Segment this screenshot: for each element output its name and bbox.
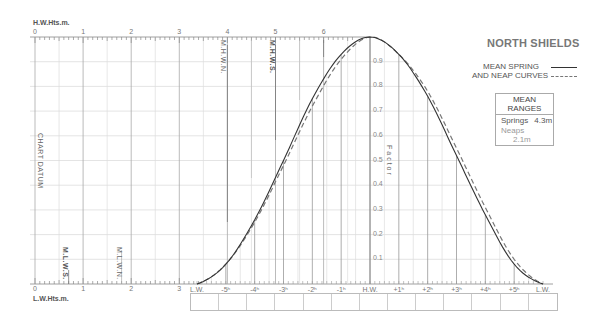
neaps-label: Neaps	[501, 126, 524, 135]
top-height-tick: 2	[129, 28, 133, 35]
time-tick: +5ʰ	[509, 286, 520, 293]
time-entry-box[interactable]	[360, 294, 388, 310]
chart-datum-label: CHART DATUM	[37, 133, 44, 189]
neaps-range: Neaps 2.1m	[496, 125, 553, 145]
time-tick: L.W.	[190, 286, 204, 293]
time-entry-box[interactable]	[388, 294, 416, 310]
factor-tick: 0.4	[373, 180, 383, 187]
time-tick: +2ʰ	[422, 286, 433, 293]
time-tick: H.W.	[362, 286, 377, 293]
legend-neap-label: AND NEAP CURVES	[472, 71, 548, 80]
factor-tick: 0.2	[373, 230, 383, 237]
legend-spring-label: MEAN SPRING	[483, 62, 539, 71]
springs-value: 4.3m	[534, 116, 552, 125]
top-height-tick: 1	[81, 28, 85, 35]
time-tick: -3ʰ	[279, 286, 288, 293]
lw-heights-label: L.W.Hts.m.	[33, 295, 69, 302]
factor-tick: 0.1	[373, 254, 383, 261]
mlws-label: M.L.W.S.	[62, 247, 69, 280]
time-entry-box[interactable]	[416, 294, 444, 310]
springs-range: Springs 4.3m	[496, 115, 553, 125]
top-height-tick: 4	[225, 28, 229, 35]
tidal-curve-diagram	[0, 0, 604, 327]
time-entry-box[interactable]	[191, 294, 219, 310]
top-height-tick: 3	[177, 28, 181, 35]
time-entry-box[interactable]	[529, 294, 557, 310]
factor-tick: 0.6	[373, 131, 383, 138]
factor-tick: 0.9	[373, 57, 383, 64]
factor-tick: 0.7	[373, 106, 383, 113]
hw-heights-label: H.W.Hts.m.	[33, 19, 70, 26]
time-entry-box[interactable]	[247, 294, 275, 310]
time-tick: -5ʰ	[221, 286, 230, 293]
time-tick: +4ʰ	[480, 286, 491, 293]
time-entry-box[interactable]	[332, 294, 360, 310]
mean-ranges-header: MEAN RANGES	[496, 94, 553, 115]
time-entry-box[interactable]	[444, 294, 472, 310]
springs-label: Springs	[501, 116, 528, 125]
factor-tick: 0.3	[373, 205, 383, 212]
bottom-height-tick: 3	[177, 285, 181, 292]
factor-tick: 0.8	[373, 81, 383, 88]
time-entry-box[interactable]	[304, 294, 332, 310]
time-tick: +1ʰ	[393, 286, 404, 293]
time-entry-box[interactable]	[275, 294, 303, 310]
time-entry-boxes	[190, 293, 558, 311]
bottom-height-tick: 2	[129, 285, 133, 292]
bottom-height-tick: 0	[33, 285, 37, 292]
time-tick: -2ʰ	[308, 286, 317, 293]
top-height-tick: 6	[322, 28, 326, 35]
mlwn-label: M.L.W.N.	[116, 247, 123, 280]
mhws-label: M.H.W.S.	[269, 40, 276, 74]
time-entry-box[interactable]	[219, 294, 247, 310]
mean-ranges-box: MEAN RANGES Springs 4.3m Neaps 2.1m	[495, 93, 554, 146]
time-tick: L.W.	[536, 286, 550, 293]
factor-tick: 0.5	[373, 156, 383, 163]
top-height-tick: 0	[33, 28, 37, 35]
time-entry-box[interactable]	[472, 294, 500, 310]
time-tick: +3ʰ	[451, 286, 462, 293]
factor-axis-label: Factor	[386, 145, 393, 177]
time-tick: -1ʰ	[337, 286, 346, 293]
mhwn-label: M.H.W.N.	[220, 40, 227, 74]
legend-spring-line	[551, 67, 577, 68]
time-tick: -4ʰ	[250, 286, 259, 293]
legend-neap-line	[551, 76, 577, 77]
top-height-tick: 5	[274, 28, 278, 35]
time-entry-box[interactable]	[501, 294, 529, 310]
neaps-value: 2.1m	[513, 135, 531, 144]
port-title: NORTH SHIELDS	[487, 37, 579, 49]
bottom-height-tick: 1	[81, 285, 85, 292]
